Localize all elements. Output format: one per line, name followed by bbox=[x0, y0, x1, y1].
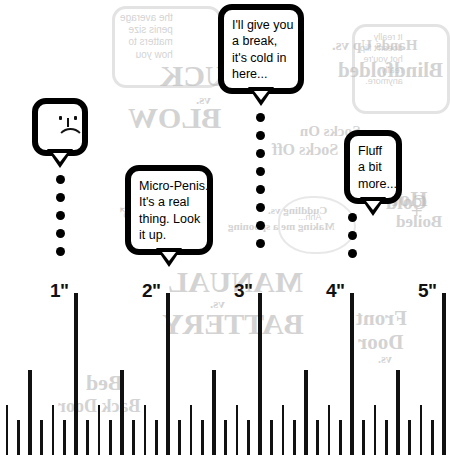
sad-face-mouth bbox=[56, 128, 85, 143]
ruler-infographic: the average penis size matters to how yo… bbox=[0, 0, 450, 455]
trail-dot bbox=[256, 185, 265, 194]
trail-dot bbox=[256, 203, 265, 212]
trail-dot bbox=[348, 249, 357, 258]
one-inch-bubble-tail bbox=[47, 149, 73, 168]
trail-dot bbox=[256, 221, 265, 230]
one-inch-callout[interactable] bbox=[32, 98, 88, 156]
trail-dot bbox=[256, 239, 265, 248]
trail-dot bbox=[56, 211, 65, 220]
trail-dot bbox=[56, 175, 65, 184]
callout-layer: Micro-Penis. It's a real thing. Look it … bbox=[0, 0, 450, 455]
sad-face-left-eye bbox=[59, 116, 62, 120]
two-inch-bubble-tail bbox=[156, 248, 182, 267]
trail-dot bbox=[56, 193, 65, 202]
three-inch-bubble-line-3: it's cold in bbox=[232, 50, 290, 66]
trail-dot bbox=[256, 113, 265, 122]
four-inch-dot-trail bbox=[347, 213, 357, 267]
four-inch-bubble-line-2: a bit bbox=[358, 159, 388, 175]
three-inch-bubble-line-4: here... bbox=[232, 66, 290, 82]
trail-dot bbox=[256, 149, 265, 158]
trail-dot bbox=[348, 213, 357, 222]
four-inch-bubble-line-3: more... bbox=[358, 176, 388, 192]
trail-dot bbox=[256, 131, 265, 140]
trail-dot bbox=[56, 229, 65, 238]
three-inch-bubble-line-2: a break, bbox=[232, 33, 290, 49]
trail-dot bbox=[348, 231, 357, 240]
one-inch-bubble bbox=[32, 98, 88, 156]
three-inch-bubble: I'll give you a break, it's cold in here… bbox=[218, 4, 304, 94]
four-inch-bubble-line-1: Fluff bbox=[358, 143, 388, 159]
two-inch-bubble-line-3: thing. Look bbox=[139, 211, 199, 227]
sad-face-icon bbox=[46, 113, 74, 143]
two-inch-bubble-line-1: Micro-Penis. bbox=[139, 178, 199, 194]
two-inch-bubble-line-4: it up. bbox=[139, 227, 199, 243]
two-inch-callout[interactable]: Micro-Penis. It's a real thing. Look it … bbox=[125, 165, 213, 255]
four-inch-callout[interactable]: Fluff a bit more... bbox=[344, 130, 402, 204]
three-inch-bubble-tail bbox=[248, 87, 274, 106]
four-inch-bubble: Fluff a bit more... bbox=[344, 130, 402, 204]
two-inch-bubble: Micro-Penis. It's a real thing. Look it … bbox=[125, 165, 213, 255]
four-inch-bubble-tail bbox=[360, 197, 386, 216]
trail-dot bbox=[256, 167, 265, 176]
three-inch-callout[interactable]: I'll give you a break, it's cold in here… bbox=[218, 4, 304, 94]
sad-face-right-eye bbox=[74, 116, 77, 120]
three-inch-bubble-line-1: I'll give you bbox=[232, 17, 290, 33]
trail-dot bbox=[56, 247, 65, 256]
three-inch-dot-trail bbox=[255, 113, 265, 257]
one-inch-dot-trail bbox=[55, 175, 65, 265]
two-inch-bubble-line-2: It's a real bbox=[139, 194, 199, 210]
sad-face-nose bbox=[67, 118, 69, 127]
